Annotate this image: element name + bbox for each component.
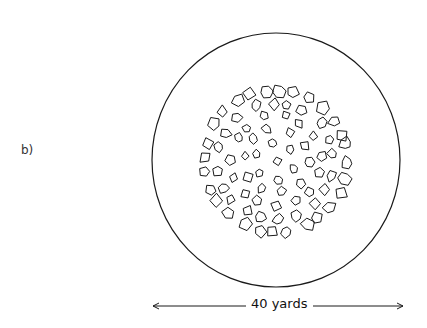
stone bbox=[213, 166, 223, 175]
stone bbox=[261, 124, 271, 133]
stone bbox=[242, 125, 251, 132]
stone bbox=[296, 105, 307, 115]
stone bbox=[281, 227, 291, 239]
stone bbox=[273, 157, 282, 166]
stone bbox=[277, 186, 287, 195]
stone bbox=[295, 120, 302, 129]
stone bbox=[291, 210, 301, 222]
stone bbox=[328, 117, 340, 126]
stone bbox=[342, 156, 352, 169]
stone bbox=[200, 167, 210, 176]
stone bbox=[288, 87, 299, 98]
stone bbox=[241, 190, 250, 198]
stone bbox=[291, 196, 300, 205]
stone bbox=[271, 201, 282, 211]
stone bbox=[253, 149, 260, 158]
stone bbox=[322, 203, 336, 213]
outer-circle-boundary bbox=[152, 33, 400, 287]
stone bbox=[235, 133, 243, 142]
stone bbox=[327, 171, 336, 183]
stone bbox=[256, 169, 263, 177]
stone bbox=[315, 167, 325, 177]
stone bbox=[309, 198, 320, 210]
stone bbox=[282, 101, 291, 110]
stone bbox=[214, 142, 223, 153]
stone bbox=[249, 133, 257, 144]
stone bbox=[268, 227, 278, 236]
stone bbox=[256, 211, 267, 221]
stone bbox=[319, 184, 330, 196]
stone bbox=[243, 172, 253, 182]
stone bbox=[218, 184, 229, 193]
stone bbox=[227, 195, 235, 205]
stone bbox=[239, 217, 252, 230]
stone bbox=[274, 176, 283, 184]
stone bbox=[304, 187, 313, 197]
stone bbox=[269, 98, 280, 111]
stone bbox=[272, 213, 284, 224]
scale-label: 40 yards bbox=[248, 296, 310, 311]
stone bbox=[286, 128, 295, 138]
stone bbox=[282, 111, 290, 119]
stone bbox=[260, 111, 268, 120]
stone bbox=[304, 92, 314, 103]
stone bbox=[225, 155, 236, 166]
stone bbox=[256, 226, 267, 239]
stone bbox=[217, 105, 227, 117]
stone bbox=[203, 138, 214, 150]
stone bbox=[297, 179, 306, 189]
stone bbox=[290, 165, 297, 173]
stone bbox=[242, 151, 250, 160]
stone bbox=[273, 85, 287, 98]
stone bbox=[230, 173, 238, 183]
stone bbox=[208, 118, 219, 131]
stone bbox=[200, 153, 210, 162]
stone bbox=[300, 142, 309, 150]
stone bbox=[327, 148, 337, 158]
stone bbox=[336, 188, 347, 199]
stone bbox=[221, 129, 233, 137]
stone bbox=[317, 152, 327, 162]
stone bbox=[338, 172, 352, 185]
stone bbox=[222, 207, 234, 218]
stone bbox=[317, 117, 327, 129]
stone bbox=[232, 113, 243, 122]
stone-circle-diagram bbox=[0, 0, 427, 328]
stone bbox=[287, 145, 294, 154]
stone bbox=[339, 136, 351, 148]
stone bbox=[309, 131, 318, 141]
stone-cluster bbox=[200, 85, 352, 238]
stone bbox=[305, 157, 315, 167]
stone bbox=[258, 183, 266, 193]
stone bbox=[317, 101, 330, 115]
stone bbox=[268, 139, 277, 147]
stone bbox=[231, 94, 244, 106]
stone bbox=[252, 99, 261, 111]
panel-label: b) bbox=[21, 143, 33, 157]
stone bbox=[326, 136, 334, 144]
stone bbox=[243, 206, 252, 215]
stone bbox=[252, 195, 262, 205]
stone bbox=[243, 87, 256, 100]
stone bbox=[261, 86, 274, 98]
stone bbox=[206, 185, 216, 195]
